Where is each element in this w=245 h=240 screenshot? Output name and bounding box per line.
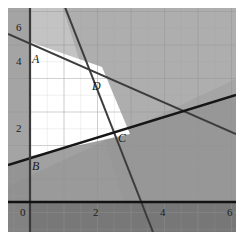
y-tick-4: 4 [16, 56, 22, 67]
vertex-label-a: A [32, 53, 39, 65]
plot-area: A B C D 6 4 2 0 2 4 6 [8, 8, 236, 232]
vertex-label-d: D [92, 80, 101, 92]
x-tick-0: 0 [20, 207, 26, 218]
y-tick-2: 2 [16, 123, 22, 134]
x-tick-6: 6 [227, 207, 233, 218]
x-tick-4: 4 [160, 207, 166, 218]
vertex-label-b: B [32, 160, 39, 172]
y-tick-6: 6 [16, 22, 22, 33]
plot-canvas [8, 8, 236, 232]
vertex-label-c: C [118, 132, 126, 144]
x-tick-2: 2 [93, 207, 99, 218]
linear-programming-chart: A B C D 6 4 2 0 2 4 6 [0, 0, 245, 240]
